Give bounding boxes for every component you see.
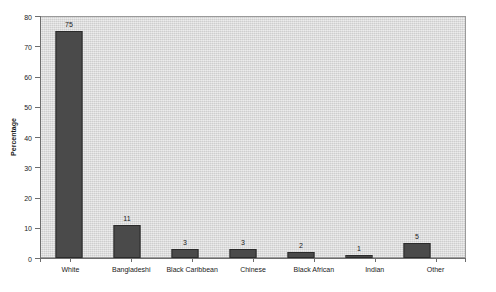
y-tick-label-0: 0 <box>28 255 32 262</box>
y-tick-50: 50 <box>35 107 40 108</box>
y-axis-title: Percentage <box>10 118 17 156</box>
bar-white[interactable] <box>56 31 83 258</box>
bar-slot-indian: 1 <box>330 16 388 258</box>
bar-value-other: 5 <box>415 233 419 240</box>
x-axis-label: Indian <box>340 266 410 273</box>
y-tick-40: 40 <box>35 137 40 138</box>
x-axis-label: White <box>35 266 105 273</box>
y-tick-30: 30 <box>35 167 40 168</box>
bar-value-black-caribbean: 3 <box>183 239 187 246</box>
x-tick-0 <box>70 258 71 262</box>
y-tick-80: 80 <box>35 16 40 17</box>
bar-slot-black-caribbean: 3 <box>156 16 214 258</box>
bar-bangladeshi[interactable] <box>114 225 141 258</box>
y-tick-60: 60 <box>35 77 40 78</box>
bar-chart: 75 11 3 3 2 1 5 010203040506070 <box>0 0 496 292</box>
bar-chinese[interactable] <box>230 249 257 258</box>
bar-other[interactable] <box>404 243 431 258</box>
y-tick-label-30: 30 <box>24 164 32 171</box>
x-tick-6 <box>436 258 437 262</box>
bar-slot-white: 75 <box>40 16 98 258</box>
bar-value-indian: 1 <box>357 245 361 252</box>
x-tick-3 <box>253 258 254 262</box>
x-axis-label: Black African <box>279 266 349 273</box>
y-tick-label-80: 80 <box>24 13 32 20</box>
bar-value-white: 75 <box>65 21 73 28</box>
y-tick-label-60: 60 <box>24 74 32 81</box>
y-tick-label-10: 10 <box>24 225 32 232</box>
bar-value-bangladeshi: 11 <box>123 215 130 222</box>
y-tick-20: 20 <box>35 198 40 199</box>
x-tick-edge-0 <box>40 258 41 262</box>
bar-slot-other: 5 <box>388 16 446 258</box>
x-tick-2 <box>192 258 193 262</box>
x-tick-5 <box>375 258 376 262</box>
y-tick-10: 10 <box>35 228 40 229</box>
bar-value-black-african: 2 <box>299 242 303 249</box>
y-axis-line <box>40 16 41 258</box>
x-tick-4 <box>314 258 315 262</box>
bar-slot-chinese: 3 <box>214 16 272 258</box>
bars-layer: 75 11 3 3 2 1 5 <box>40 16 466 258</box>
x-axis-label: Chinese <box>218 266 288 273</box>
x-axis-ticks: WhiteBangladeshiBlack CaribbeanChineseBl… <box>40 258 466 292</box>
bar-value-chinese: 3 <box>241 239 245 246</box>
y-tick-label-70: 70 <box>24 43 32 50</box>
y-tick-label-40: 40 <box>24 134 32 141</box>
x-tick-edge-1 <box>465 258 466 262</box>
y-tick-label-50: 50 <box>24 104 32 111</box>
bar-slot-bangladeshi: 11 <box>98 16 156 258</box>
x-tick-1 <box>131 258 132 262</box>
bar-slot-black-african: 2 <box>272 16 330 258</box>
x-axis-label: Black Caribbean <box>157 266 227 273</box>
bar-black-caribbean[interactable] <box>172 249 199 258</box>
x-axis-label: Other <box>401 266 471 273</box>
x-axis-label: Bangladeshi <box>96 266 166 273</box>
y-tick-70: 70 <box>35 46 40 47</box>
y-tick-label-20: 20 <box>24 195 32 202</box>
